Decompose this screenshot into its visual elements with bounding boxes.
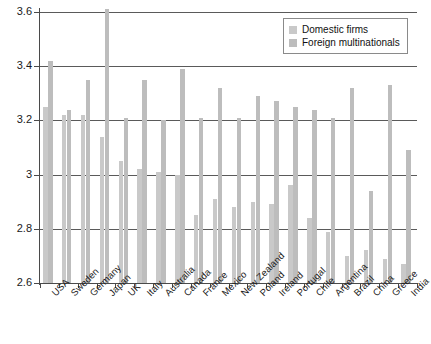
bar-foreign	[218, 88, 222, 283]
legend-label-foreign: Foreign multinationals	[302, 37, 400, 48]
bar-foreign	[142, 80, 146, 283]
gridline	[40, 66, 417, 67]
bar-foreign	[331, 118, 335, 283]
y-tick-mark	[34, 229, 39, 230]
x-tick-mark	[40, 283, 41, 288]
gridline	[40, 229, 417, 230]
y-tick-mark	[34, 120, 39, 121]
y-tick-label: 3	[26, 169, 32, 180]
bar-foreign	[161, 120, 165, 283]
bar-foreign	[105, 9, 109, 283]
bar-domestic	[119, 161, 123, 283]
bar-foreign	[312, 110, 316, 283]
bar-foreign	[48, 61, 52, 283]
legend-label-domestic: Domestic firms	[302, 24, 368, 35]
gridline	[40, 120, 417, 121]
y-tick-label: 3.6	[17, 6, 32, 17]
bar-domestic	[62, 115, 66, 283]
bar-foreign	[256, 96, 260, 283]
bar-foreign	[67, 110, 71, 283]
gridline	[40, 175, 417, 176]
gridline	[40, 12, 417, 13]
legend-item-domestic: Domestic firms	[289, 23, 400, 36]
bar-foreign	[124, 118, 128, 283]
bar-domestic	[156, 172, 160, 283]
bar-domestic	[251, 202, 255, 283]
bar-foreign	[180, 69, 184, 283]
bar-domestic	[81, 115, 85, 283]
y-tick-label: 2.6	[17, 277, 32, 288]
bar-foreign	[388, 85, 392, 283]
chart-legend: Domestic firms Foreign multinationals	[283, 18, 408, 54]
bar-foreign	[406, 150, 410, 283]
bar-foreign	[199, 118, 203, 283]
bar-domestic	[137, 169, 141, 283]
y-tick-mark	[34, 66, 39, 67]
y-tick-label: 3.2	[17, 114, 32, 125]
y-tick-mark	[34, 12, 39, 13]
legend-swatch-foreign-icon	[289, 39, 297, 47]
y-tick-label: 3.4	[17, 60, 32, 71]
bar-domestic	[100, 137, 104, 283]
bar-domestic	[175, 175, 179, 283]
bar-domestic	[288, 185, 292, 283]
y-tick-mark	[34, 283, 39, 284]
bar-foreign	[369, 191, 373, 283]
bar-domestic	[43, 107, 47, 283]
y-tick-mark	[34, 175, 39, 176]
bar-domestic	[213, 199, 217, 283]
bar-foreign	[293, 107, 297, 283]
bar-foreign	[350, 88, 354, 283]
y-axis-labels: 2.62.833.23.43.6	[0, 0, 34, 344]
x-tick-label: UK	[126, 282, 143, 299]
bar-domestic	[232, 207, 236, 283]
bar-foreign	[237, 118, 241, 283]
legend-item-foreign: Foreign multinationals	[289, 36, 400, 49]
bar-foreign	[86, 80, 90, 283]
y-tick-label: 2.8	[17, 223, 32, 234]
legend-swatch-domestic-icon	[289, 26, 297, 34]
